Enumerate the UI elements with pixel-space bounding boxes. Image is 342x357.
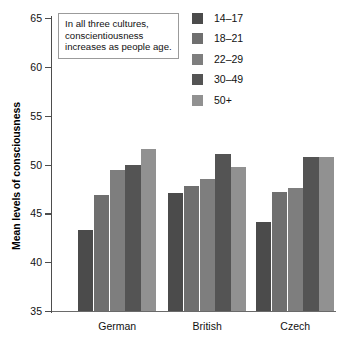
bar-czech-30-49 (303, 157, 318, 311)
legend-swatch-icon (192, 33, 203, 44)
bar-british-50+ (231, 167, 246, 311)
y-tick-mark (45, 213, 52, 214)
y-tick-label: 55 (14, 111, 42, 121)
bar-british-14-17 (168, 193, 183, 311)
legend-label: 50+ (214, 94, 232, 106)
legend-swatch-icon (192, 54, 203, 65)
bar-german-18-21 (94, 195, 109, 311)
bar-german-14-17 (78, 230, 93, 311)
legend: 14–1718–2122–2930–4950+ (192, 12, 282, 114)
bar-czech-18-21 (272, 192, 287, 311)
insight-note-line-2: conscientiousness (65, 30, 173, 42)
y-tick-mark (45, 262, 52, 263)
legend-label: 22–29 (214, 53, 243, 65)
bar-british-30-49 (215, 154, 230, 311)
insight-note-line-3: increases as people age. (65, 41, 173, 53)
insight-note-box: In all three cultures, conscientiousness… (58, 13, 179, 59)
insight-note-text: In all three cultures, conscientiousness… (65, 18, 173, 53)
y-tick-label: 45 (14, 208, 42, 218)
y-tick-mark (45, 311, 52, 312)
y-tick-label: 40 (14, 257, 42, 267)
bar-german-30-49 (125, 165, 140, 312)
legend-item-4[interactable]: 50+ (192, 94, 282, 114)
legend-label: 14–17 (214, 12, 243, 24)
legend-item-1[interactable]: 18–21 (192, 32, 282, 52)
y-tick-mark (45, 18, 52, 19)
bar-german-22-29 (110, 170, 125, 311)
legend-item-0[interactable]: 14–17 (192, 12, 282, 32)
x-axis-label-czech: Czech (235, 320, 342, 332)
bar-czech-14-17 (256, 222, 271, 311)
legend-item-3[interactable]: 30–49 (192, 73, 282, 93)
y-tick-mark (45, 67, 52, 68)
y-tick-mark (45, 116, 52, 117)
y-tick-label: 60 (14, 62, 42, 72)
y-tick-label: 65 (14, 13, 42, 23)
bar-german-50+ (141, 149, 156, 311)
legend-label: 30–49 (214, 73, 243, 85)
y-tick-mark (45, 165, 52, 166)
bar-czech-22-29 (288, 188, 303, 311)
legend-swatch-icon (192, 95, 203, 106)
bar-chart: Mean levels of consciousness 35404550556… (0, 0, 342, 357)
bar-british-22-29 (200, 179, 215, 311)
insight-note-line-1: In all three cultures, (65, 18, 173, 30)
bar-british-18-21 (184, 186, 199, 311)
legend-item-2[interactable]: 22–29 (192, 53, 282, 73)
bar-czech-50+ (319, 157, 334, 311)
legend-label: 18–21 (214, 32, 243, 44)
legend-swatch-icon (192, 13, 203, 24)
legend-swatch-icon (192, 74, 203, 85)
y-tick-label: 35 (14, 306, 42, 316)
y-tick-label: 50 (14, 160, 42, 170)
